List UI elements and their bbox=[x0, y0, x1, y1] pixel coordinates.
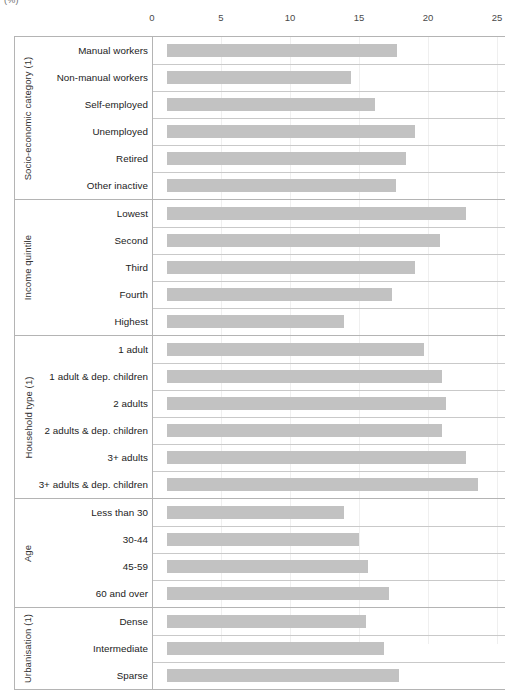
bar[interactable] bbox=[167, 424, 442, 437]
x-axis-tick-20: 20 bbox=[423, 12, 434, 23]
bar[interactable] bbox=[167, 179, 396, 192]
bar-track bbox=[167, 64, 505, 91]
bar-row[interactable]: Other inactive bbox=[15, 172, 505, 199]
bar-row-label-text: 1 adult bbox=[118, 344, 152, 355]
bar-track bbox=[167, 254, 505, 281]
bar-row-label-text: Non-manual workers bbox=[57, 72, 152, 83]
bar-row[interactable]: 60 and over bbox=[15, 580, 505, 607]
bar[interactable] bbox=[167, 587, 389, 600]
x-axis-tick-10: 10 bbox=[285, 12, 296, 23]
bar[interactable] bbox=[167, 615, 366, 628]
bar[interactable] bbox=[167, 642, 384, 655]
group-rows: LowestSecondThirdFourthHighest bbox=[15, 200, 505, 335]
bar-track bbox=[167, 580, 505, 607]
bar[interactable] bbox=[167, 533, 359, 546]
bar-row[interactable]: 1 adult & dep. children bbox=[15, 363, 505, 390]
bar-row[interactable]: Self-employed bbox=[15, 91, 505, 118]
bar[interactable] bbox=[167, 261, 415, 274]
bar[interactable] bbox=[167, 288, 392, 301]
bar-row[interactable]: 2 adults bbox=[15, 390, 505, 417]
bar-row[interactable]: Second bbox=[15, 227, 505, 254]
bar[interactable] bbox=[167, 44, 397, 57]
bar[interactable] bbox=[167, 370, 442, 383]
group-rows: Less than 3030-4445-5960 and over bbox=[15, 499, 505, 607]
bar-track bbox=[167, 526, 505, 553]
bar[interactable] bbox=[167, 478, 478, 491]
bar-row[interactable]: Manual workers bbox=[15, 37, 505, 64]
x-axis-tick-5: 5 bbox=[218, 12, 223, 23]
bar-row[interactable]: 2 adults & dep. children bbox=[15, 417, 505, 444]
bar-row-label: Highest bbox=[39, 308, 153, 335]
bar[interactable] bbox=[167, 71, 351, 84]
bar-row[interactable]: 3+ adults bbox=[15, 444, 505, 471]
bar-row-label-text: Fourth bbox=[119, 289, 152, 300]
bar-row-label: 1 adult bbox=[39, 336, 153, 363]
bar-row-label-text: 2 adults & dep. children bbox=[44, 425, 152, 436]
bar-row-label: 3+ adults & dep. children bbox=[39, 471, 153, 498]
bar[interactable] bbox=[167, 451, 466, 464]
bar-row[interactable]: Dense bbox=[15, 608, 505, 635]
bar-row-label: 45-59 bbox=[39, 553, 153, 580]
bar-row-label-text: 30-44 bbox=[123, 534, 152, 545]
bar-row-label-text: Less than 30 bbox=[91, 507, 152, 518]
bar-row-label: 3+ adults bbox=[39, 444, 153, 471]
group-income-quintile: Income quintileLowestSecondThirdFourthHi… bbox=[14, 200, 505, 336]
bar-row[interactable]: 1 adult bbox=[15, 336, 505, 363]
bar-row[interactable]: Third bbox=[15, 254, 505, 281]
bar-row-label-text: Retired bbox=[116, 153, 152, 164]
group-socio-economic-category-1: Socio-economic category (1)Manual worker… bbox=[14, 36, 505, 200]
bar[interactable] bbox=[167, 207, 466, 220]
bar[interactable] bbox=[167, 315, 344, 328]
bar-track bbox=[167, 200, 505, 227]
bar-row[interactable]: 30-44 bbox=[15, 526, 505, 553]
bar-row[interactable]: Highest bbox=[15, 308, 505, 335]
bar[interactable] bbox=[167, 560, 368, 573]
bar-track bbox=[167, 608, 505, 635]
bar-row-label: Retired bbox=[39, 145, 153, 172]
bar-row[interactable]: 45-59 bbox=[15, 553, 505, 580]
bar-row-label-text: 45-59 bbox=[123, 561, 152, 572]
bar-row[interactable]: Sparse bbox=[15, 662, 505, 689]
bar-track bbox=[167, 172, 505, 199]
bar-row[interactable]: Lowest bbox=[15, 200, 505, 227]
bar-row-label: Dense bbox=[39, 608, 153, 635]
bar-row-label-text: Other inactive bbox=[87, 180, 152, 191]
bar-track bbox=[167, 499, 505, 526]
group-urbanisation-1: Urbanisation (1)DenseIntermediateSparse bbox=[14, 608, 505, 690]
bar-row[interactable]: Non-manual workers bbox=[15, 64, 505, 91]
x-axis-tick-0: 0 bbox=[149, 12, 154, 23]
bar-row[interactable]: Retired bbox=[15, 145, 505, 172]
bar-row-label: 30-44 bbox=[39, 526, 153, 553]
bar-row[interactable]: Unemployed bbox=[15, 118, 505, 145]
bar-track bbox=[167, 417, 505, 444]
bar-track bbox=[167, 281, 505, 308]
bar-row[interactable]: Fourth bbox=[15, 281, 505, 308]
bar-row-label: Self-employed bbox=[39, 91, 153, 118]
bar-row-label-text: Self-employed bbox=[85, 99, 152, 110]
bar[interactable] bbox=[167, 669, 399, 682]
bar[interactable] bbox=[167, 343, 424, 356]
bar[interactable] bbox=[167, 152, 406, 165]
bar-row-label-text: 1 adult & dep. children bbox=[49, 371, 152, 382]
bar-row[interactable]: Less than 30 bbox=[15, 499, 505, 526]
bar-track bbox=[167, 118, 505, 145]
group-rows: Manual workersNon-manual workersSelf-emp… bbox=[15, 37, 505, 199]
bar-row-label: Non-manual workers bbox=[39, 64, 153, 91]
chart-body: Socio-economic category (1)Manual worker… bbox=[0, 36, 505, 690]
bar-row-label: 60 and over bbox=[39, 580, 153, 607]
bar[interactable] bbox=[167, 506, 344, 519]
bar[interactable] bbox=[167, 125, 415, 138]
group-household-type-1: Household type (1)1 adult1 adult & dep. … bbox=[14, 336, 505, 499]
bar[interactable] bbox=[167, 98, 375, 111]
group-rows: 1 adult1 adult & dep. children2 adults2 … bbox=[15, 336, 505, 498]
unit-label: (%) bbox=[4, 0, 19, 6]
bar[interactable] bbox=[167, 397, 446, 410]
bar-row-label-text: Lowest bbox=[117, 208, 152, 219]
bar-track bbox=[167, 308, 505, 335]
bar-row[interactable]: Intermediate bbox=[15, 635, 505, 662]
bar-row[interactable]: 3+ adults & dep. children bbox=[15, 471, 505, 498]
bar[interactable] bbox=[167, 234, 440, 247]
bar-row-label: Less than 30 bbox=[39, 499, 153, 526]
bar-row-label-text: Sparse bbox=[117, 670, 152, 681]
bar-row-label-text: 60 and over bbox=[96, 588, 152, 599]
